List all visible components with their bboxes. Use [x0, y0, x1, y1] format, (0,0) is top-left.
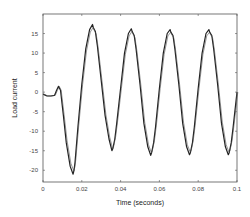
x-tick-label: 0.04: [115, 186, 127, 192]
y-tick-label: 10: [31, 50, 38, 56]
x-tick-label: 0.08: [192, 186, 204, 192]
y-tick-label: -5: [33, 109, 39, 115]
y-tick-label: -15: [29, 148, 38, 154]
x-tick-label: 0.06: [154, 186, 166, 192]
x-axis-label: Time (seconds): [116, 199, 164, 207]
y-tick-label: 15: [31, 31, 38, 37]
y-tick-label: -10: [29, 128, 38, 134]
x-tick-label: 0.02: [76, 186, 88, 192]
x-tick-label: 0.1: [233, 186, 242, 192]
y-tick-label: -20: [29, 167, 38, 173]
y-axis-label: Load current: [11, 78, 18, 117]
line-chart: 00.020.040.060.080.1 151050-5-10-15-20 T…: [0, 0, 250, 217]
